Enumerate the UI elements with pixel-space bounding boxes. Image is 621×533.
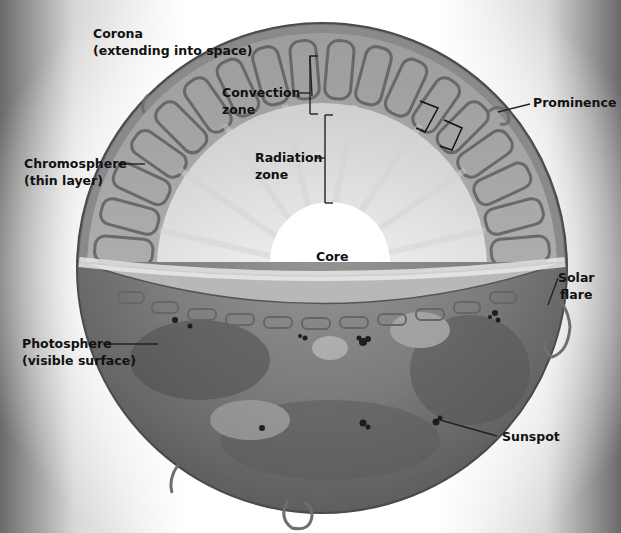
label-prominence: Prominence [533,94,616,111]
label-convection-zone: Convection zone [222,84,300,118]
label-sunspot: Sunspot [502,428,560,445]
label-photosphere: Photosphere (visible surface) [22,335,136,369]
label-core: Core [316,248,348,265]
label-corona: Corona (extending into space) [93,25,253,59]
label-chromosphere: Chromosphere (thin layer) [24,155,127,189]
sun-structure-diagram: Corona (extending into space) Convection… [0,0,621,533]
label-radiation-zone: Radiation zone [255,149,322,183]
label-solar-flare: Solar flare [558,269,594,303]
sun-illustration [0,0,621,533]
